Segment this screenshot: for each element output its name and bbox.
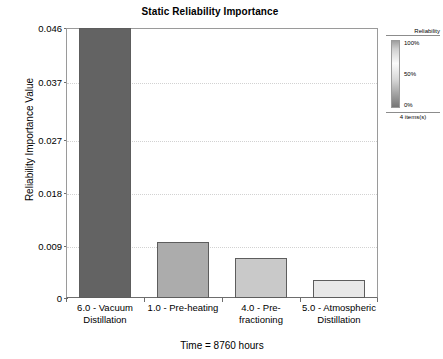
x-label-vacuum-distillation: 6.0 - Vacuum Distillation	[66, 302, 144, 326]
bar-pre-heating[interactable]	[157, 242, 209, 298]
y-axis-tick-marks	[0, 28, 70, 298]
chart-container: Static Reliability Importance 0.046 0.03…	[0, 0, 443, 359]
bar-atmospheric-distillation[interactable]	[313, 280, 365, 298]
legend-min-label: 0%	[404, 102, 413, 108]
y-axis-title: Reliability Importance Value	[24, 25, 35, 255]
reliability-legend: Reliability 100% 50% 0% 4 items(s)	[386, 28, 440, 120]
x-label-pre-heating: 1.0 - Pre-heating	[144, 302, 222, 314]
bar-pre-fractioning[interactable]	[235, 258, 287, 298]
legend-item-count: 4 items(s)	[386, 112, 440, 120]
chart-title: Static Reliability Importance	[40, 6, 380, 17]
bars-layer	[66, 28, 378, 298]
legend-max-label: 100%	[404, 40, 419, 46]
bar-vacuum-distillation[interactable]	[79, 28, 131, 298]
x-label-pre-fractioning: 4.0 - Pre-fractioning	[222, 302, 300, 326]
legend-title: Reliability	[386, 28, 440, 36]
x-label-atmospheric-distillation: 5.0 - Atmospheric Distillation	[300, 302, 378, 326]
legend-mid-label: 50%	[404, 71, 416, 77]
time-note: Time = 8760 hours	[66, 340, 378, 351]
legend-gradient-bar	[391, 40, 400, 108]
